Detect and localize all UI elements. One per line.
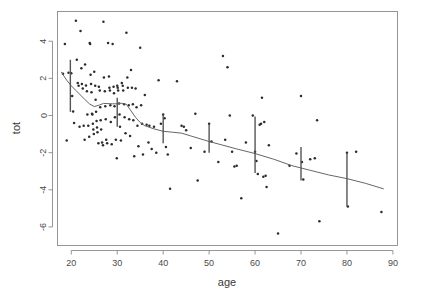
- data-point: [153, 125, 156, 128]
- data-point: [113, 92, 116, 95]
- data-point: [72, 110, 75, 113]
- data-point: [98, 85, 101, 88]
- data-point: [108, 86, 111, 89]
- data-point: [116, 86, 119, 89]
- figure-background: [0, 0, 425, 298]
- data-point: [185, 129, 188, 132]
- y-axis-tick-label: -6: [39, 223, 49, 231]
- data-point: [217, 161, 220, 164]
- data-point: [129, 135, 132, 138]
- x-axis-tick-label: 70: [296, 258, 306, 268]
- data-point: [155, 151, 158, 154]
- data-point: [86, 113, 89, 116]
- data-point: [139, 46, 142, 49]
- data-point: [314, 157, 317, 160]
- data-point: [226, 66, 229, 69]
- x-axis-tick-label: 90: [388, 258, 398, 268]
- data-point: [104, 118, 107, 121]
- data-point: [114, 116, 117, 119]
- data-point: [99, 119, 102, 122]
- data-point: [318, 220, 321, 223]
- x-axis-tick-label: 40: [158, 258, 168, 268]
- data-point: [67, 72, 70, 75]
- data-point: [96, 131, 99, 134]
- data-point: [82, 124, 85, 127]
- data-point: [264, 175, 267, 178]
- data-point: [92, 128, 95, 131]
- data-point: [144, 94, 147, 97]
- plot-canvas: 2030405060708090 420-2-4-6 age tot: [0, 0, 425, 298]
- data-point: [169, 188, 172, 191]
- data-point: [245, 141, 248, 144]
- y-axis-tick-label: 4: [39, 39, 49, 44]
- data-point: [263, 121, 266, 124]
- data-point: [194, 112, 197, 115]
- data-point: [257, 173, 260, 176]
- data-point: [132, 119, 135, 122]
- data-point: [81, 83, 84, 86]
- data-point: [78, 125, 81, 128]
- data-point: [189, 147, 192, 150]
- data-point: [79, 30, 82, 33]
- data-point: [89, 43, 92, 46]
- data-point: [118, 113, 121, 116]
- scatter-plot-figure: 2030405060708090 420-2-4-6 age tot: [0, 0, 425, 298]
- data-point: [116, 157, 119, 160]
- data-point: [110, 143, 113, 146]
- data-point: [136, 124, 139, 127]
- data-point: [65, 139, 68, 142]
- data-point: [82, 87, 85, 90]
- data-point: [265, 186, 268, 189]
- data-point: [131, 86, 134, 89]
- data-point: [222, 55, 225, 58]
- data-point: [103, 76, 106, 79]
- data-point: [64, 43, 67, 46]
- data-point: [109, 104, 112, 107]
- data-point: [122, 89, 125, 92]
- data-point: [128, 118, 131, 121]
- data-point: [157, 79, 160, 82]
- data-point: [90, 91, 93, 94]
- data-point: [117, 89, 120, 92]
- data-point: [95, 120, 98, 123]
- data-point: [104, 105, 107, 108]
- data-point: [120, 139, 123, 142]
- data-point: [86, 90, 89, 93]
- y-axis-title: tot: [10, 122, 22, 134]
- data-point: [106, 142, 109, 145]
- data-point: [73, 122, 76, 125]
- data-point: [95, 111, 98, 114]
- data-point: [75, 20, 78, 23]
- data-point: [183, 125, 186, 128]
- data-point: [176, 80, 179, 83]
- data-point: [262, 176, 265, 179]
- data-point: [133, 155, 136, 158]
- data-point: [127, 86, 130, 89]
- y-axis-tick-label: -2: [39, 149, 49, 157]
- data-point: [240, 197, 243, 200]
- data-point: [93, 133, 96, 136]
- data-point: [132, 103, 135, 106]
- data-point: [380, 211, 383, 214]
- y-axis-tick-label: 2: [39, 76, 49, 81]
- data-point: [101, 141, 104, 144]
- data-point: [134, 87, 137, 90]
- data-point: [91, 113, 94, 116]
- data-point: [165, 146, 168, 149]
- data-point: [104, 90, 107, 93]
- data-point: [302, 178, 305, 181]
- data-point: [102, 144, 105, 147]
- data-point: [89, 73, 92, 76]
- data-point: [77, 85, 80, 88]
- data-point: [233, 165, 236, 168]
- x-axis-tick-label: 60: [250, 258, 260, 268]
- data-point: [111, 43, 114, 46]
- data-point: [107, 42, 110, 45]
- data-point: [224, 138, 227, 141]
- data-point: [119, 125, 122, 128]
- y-axis-tick-label: -4: [39, 186, 49, 194]
- data-point: [76, 59, 79, 62]
- data-point: [260, 123, 263, 126]
- data-point: [121, 85, 124, 88]
- data-point: [90, 83, 93, 86]
